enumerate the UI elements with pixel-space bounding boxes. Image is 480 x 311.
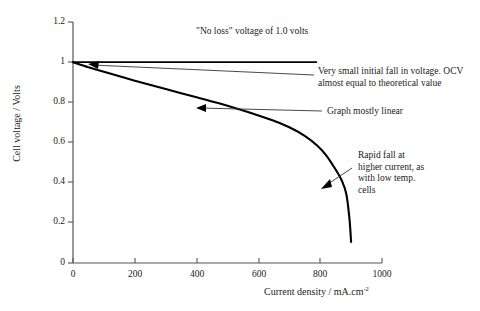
y-tick-label-0_4: 0.4 — [31, 176, 65, 186]
x-tick-label-200: 200 — [115, 269, 155, 279]
x-tick-label-400: 400 — [177, 269, 217, 279]
annotation-initial-fall: Very small initial fall in voltage. OCV … — [318, 66, 478, 89]
x-tick-label-600: 600 — [239, 269, 279, 279]
x-axis-title-text: Current density / mA.cm — [264, 286, 363, 297]
y-axis-title: Cell voltage / Volts — [11, 44, 22, 204]
y-tick-label-0: 0 — [31, 257, 65, 267]
x-axis-title-exponent: -2 — [363, 285, 368, 292]
x-tick-label-1000: 1000 — [362, 269, 402, 279]
x-axis-title: Current density / mA.cm-2 — [264, 285, 369, 297]
y-tick-label-0_6: 0.6 — [31, 136, 65, 146]
annotation-rapid-fall: Rapid fall at higher current, as with lo… — [358, 150, 464, 196]
annotation-no-loss: "No loss" voltage of 1.0 volts — [196, 26, 308, 38]
x-tick-label-0: 0 — [53, 269, 93, 279]
y-tick-label-0_8: 0.8 — [31, 96, 65, 106]
y-tick-label-1_2: 1.2 — [31, 16, 65, 26]
y-tick-label-1: 1 — [31, 56, 65, 66]
x-tick-label-800: 800 — [300, 269, 340, 279]
y-tick-label-0_2: 0.2 — [31, 216, 65, 226]
annotation-mostly-linear: Graph mostly linear — [327, 106, 403, 118]
